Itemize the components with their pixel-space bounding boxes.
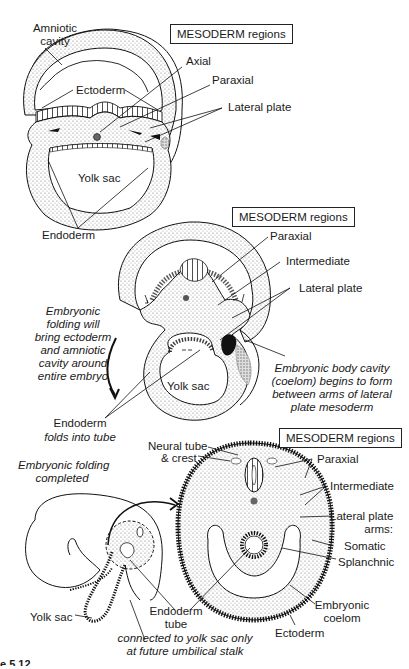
stage1-axial-label: Axial: [186, 55, 211, 68]
stage1-endoderm-label: Endoderm: [42, 229, 95, 242]
stage3-mesoderm-regions-box: MESODERM regions: [279, 428, 402, 448]
stage1-paraxial-label: Paraxial: [212, 74, 254, 87]
stage2-paraxial-label: Paraxial: [270, 230, 312, 243]
stage1-mesoderm-regions-box: MESODERM regions: [170, 24, 293, 44]
stage3-lateral-plate-arms-label: Lateral plate arms:: [330, 510, 393, 536]
stage1-amniotic-cavity-label: Amniotic cavity: [20, 22, 90, 48]
stage3-yolk-sac-label: Yolk sac: [30, 611, 72, 624]
stage3-paraxial-label: Paraxial: [317, 453, 359, 466]
stage3-somatic-label: Somatic: [344, 540, 386, 553]
stage3-crest-label: & crest: [161, 452, 197, 465]
stage3-connection-note: connected to yolk sac only at future umb…: [110, 632, 260, 658]
stage3-splanchnic-label: Splanchnic: [338, 556, 394, 569]
stage2-lateral-plate-label: Lateral plate: [299, 282, 362, 295]
stage3-endoderm-tube-label: Endoderm tube: [146, 605, 206, 631]
stage3-ectoderm-label: Ectoderm: [275, 627, 324, 640]
stage1-yolk-sac-label: Yolk sac: [78, 172, 120, 185]
stage2-mesoderm-regions-box: MESODERM regions: [232, 207, 355, 227]
stage2-coelom-note: Embryonic body cavity (coelom) begins to…: [262, 362, 402, 414]
stage2-endoderm-label: Endoderm: [40, 417, 120, 430]
stage3-cross-section: [178, 443, 332, 620]
stage1-ectoderm-label: Ectoderm: [76, 84, 125, 97]
stage3-embryonic-coelom-label: Embryonic coelom: [312, 599, 372, 625]
stage3-whole-embryo: [26, 494, 178, 622]
stage3-intermediate-label: Intermediate: [330, 480, 394, 493]
stage2-folds-into-tube-note: folds into tube: [40, 431, 120, 444]
stage2-yolk-sac-label: Yolk sac: [167, 380, 209, 393]
stage3-folding-completed-note: Embryonic folding completed: [18, 459, 106, 485]
stage2-folding-note: Embryonic folding will bring ectoderm an…: [28, 305, 118, 383]
stage2-intermediate-label: Intermediate: [286, 255, 350, 268]
stage1-lateral-plate-label: Lateral plate: [228, 101, 291, 114]
